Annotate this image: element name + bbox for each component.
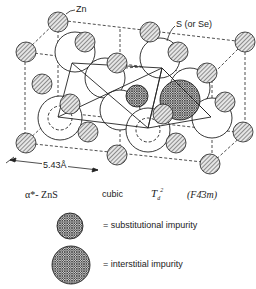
- lattice-constant-label: 5.43Å: [42, 160, 68, 170]
- point-group-superscript: 2: [160, 187, 163, 193]
- zn-leader-line: [66, 10, 75, 14]
- crystal-system-label: cubic: [102, 189, 123, 199]
- space-group-label: (F4̄3m): [187, 189, 217, 200]
- substitutional-impurity-atom: [126, 85, 148, 107]
- point-group-label: Td2: [151, 187, 163, 201]
- legend-substitutional-text: = substitutional impurity: [103, 220, 197, 230]
- legend-substitutional-symbol: [57, 213, 83, 239]
- legend-interstitial-symbol: [52, 246, 90, 284]
- zn-label: Zn: [76, 4, 87, 14]
- s-or-se-label: S (or Se): [176, 19, 212, 29]
- legend-interstitial-text: = interstitial impurity: [103, 259, 183, 269]
- structure-label: α*- ZnS: [25, 189, 58, 200]
- point-group-subscript: d: [157, 195, 160, 201]
- zns-crystal-structure-diagram: [0, 0, 256, 289]
